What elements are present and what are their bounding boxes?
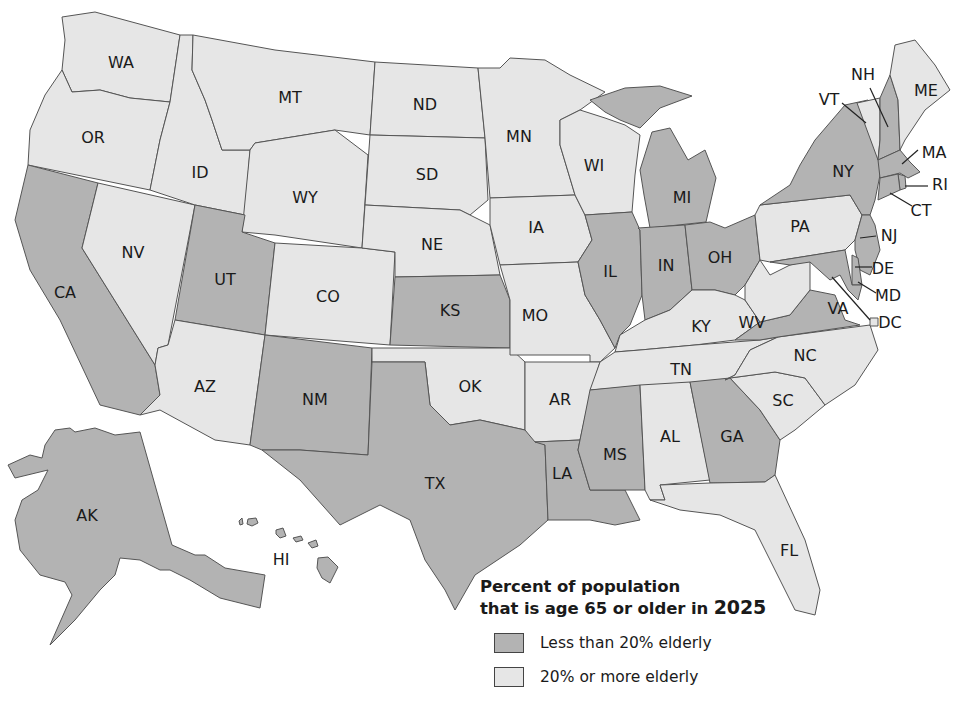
svg-text:TX: TX bbox=[424, 474, 446, 493]
svg-text:KY: KY bbox=[691, 317, 711, 336]
svg-text:MN: MN bbox=[506, 127, 532, 146]
state-HI-island-3 bbox=[276, 528, 286, 538]
svg-text:MS: MS bbox=[603, 445, 627, 464]
svg-text:SD: SD bbox=[416, 165, 438, 184]
svg-text:NY: NY bbox=[832, 162, 854, 181]
svg-text:IL: IL bbox=[603, 262, 617, 281]
legend-item-under-20: Less than 20% elderly bbox=[480, 633, 820, 653]
svg-text:RI: RI bbox=[932, 175, 948, 194]
legend-title: Percent of population that is age 65 or … bbox=[480, 577, 820, 619]
state-AK bbox=[8, 428, 265, 645]
state-HI-island-6 bbox=[317, 557, 338, 583]
svg-text:MT: MT bbox=[278, 88, 302, 107]
svg-text:WI: WI bbox=[584, 156, 605, 175]
svg-text:VT: VT bbox=[819, 90, 840, 109]
svg-text:OK: OK bbox=[458, 377, 482, 396]
map-legend: Percent of population that is age 65 or … bbox=[480, 577, 820, 687]
swatch-light bbox=[494, 667, 524, 687]
svg-text:MD: MD bbox=[875, 286, 901, 305]
svg-text:AR: AR bbox=[549, 390, 571, 409]
state-MI-lower bbox=[640, 128, 716, 228]
svg-text:AK: AK bbox=[76, 506, 98, 525]
svg-text:LA: LA bbox=[552, 464, 572, 483]
state-HI-island-1 bbox=[239, 518, 243, 525]
state-HI-island-5 bbox=[308, 540, 318, 548]
state-HI-island-4 bbox=[293, 536, 303, 542]
svg-text:PA: PA bbox=[790, 217, 810, 236]
svg-text:IA: IA bbox=[528, 218, 544, 237]
svg-text:SC: SC bbox=[772, 391, 793, 410]
legend-title-line2: that is age 65 or older in 2025 bbox=[480, 597, 820, 619]
svg-text:NM: NM bbox=[302, 390, 328, 409]
svg-text:KS: KS bbox=[440, 301, 461, 320]
state-MS bbox=[578, 385, 645, 490]
svg-text:MI: MI bbox=[673, 188, 692, 207]
state-HI-island-2 bbox=[247, 518, 258, 526]
svg-text:ID: ID bbox=[191, 163, 208, 182]
svg-text:FL: FL bbox=[780, 541, 798, 560]
svg-text:DE: DE bbox=[872, 259, 894, 278]
svg-text:NH: NH bbox=[851, 65, 875, 84]
svg-text:NE: NE bbox=[421, 235, 443, 254]
state-DC bbox=[870, 318, 878, 326]
svg-text:IN: IN bbox=[658, 256, 675, 275]
svg-text:HI: HI bbox=[273, 550, 290, 569]
svg-text:OH: OH bbox=[708, 248, 733, 267]
svg-text:CA: CA bbox=[54, 283, 76, 302]
state-CT bbox=[878, 174, 900, 200]
svg-text:VA: VA bbox=[828, 299, 849, 318]
svg-text:CO: CO bbox=[316, 287, 340, 306]
svg-text:AL: AL bbox=[660, 427, 680, 446]
svg-text:DC: DC bbox=[878, 313, 902, 332]
legend-year: 2025 bbox=[714, 596, 766, 618]
svg-text:MA: MA bbox=[922, 143, 947, 162]
svg-text:GA: GA bbox=[720, 427, 743, 446]
legend-title-line1: Percent of population bbox=[480, 577, 820, 597]
svg-text:MO: MO bbox=[522, 306, 548, 325]
svg-text:AZ: AZ bbox=[194, 377, 216, 396]
svg-text:WV: WV bbox=[739, 313, 766, 332]
svg-text:WA: WA bbox=[108, 53, 134, 72]
svg-text:OR: OR bbox=[81, 128, 105, 147]
legend-item-over-20: 20% or more elderly bbox=[480, 667, 820, 687]
svg-text:UT: UT bbox=[214, 270, 236, 289]
swatch-dark bbox=[494, 633, 524, 653]
svg-text:ND: ND bbox=[413, 95, 437, 114]
svg-text:TN: TN bbox=[669, 360, 692, 379]
svg-text:NJ: NJ bbox=[881, 226, 898, 245]
svg-text:NC: NC bbox=[793, 346, 816, 365]
svg-text:CT: CT bbox=[911, 201, 932, 220]
svg-text:NV: NV bbox=[122, 243, 145, 262]
svg-text:ME: ME bbox=[914, 81, 938, 100]
svg-text:WY: WY bbox=[292, 188, 318, 207]
